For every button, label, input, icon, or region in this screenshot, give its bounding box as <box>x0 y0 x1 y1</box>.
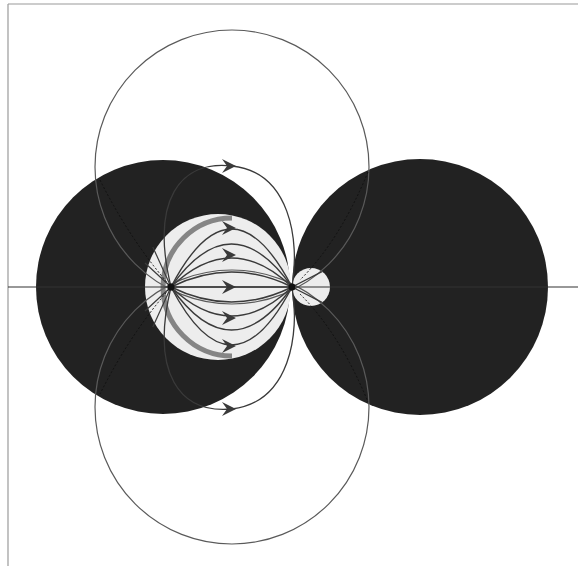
pole-source <box>168 284 175 291</box>
field-diagram <box>0 0 578 566</box>
pole-sink <box>289 284 296 291</box>
